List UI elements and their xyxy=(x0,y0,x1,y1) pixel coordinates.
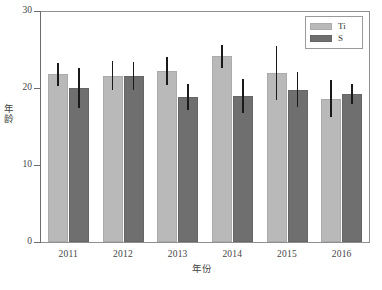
bar-s-2016 xyxy=(342,94,362,242)
error-bar-s-2012 xyxy=(133,62,134,90)
error-bar-ti-2011 xyxy=(57,63,58,86)
bar-ti-2013 xyxy=(157,71,177,242)
y-tick-label: 0 xyxy=(0,237,32,247)
legend-swatch-s-icon xyxy=(310,35,332,42)
bar-s-2011 xyxy=(69,88,89,242)
error-bar-s-2016 xyxy=(351,84,352,104)
x-axis-title-text: 年份 xyxy=(192,264,212,274)
y-tick-mark xyxy=(34,242,40,243)
error-bar-s-2011 xyxy=(78,68,79,108)
error-bar-ti-2012 xyxy=(112,61,113,90)
y-tick-mark xyxy=(34,165,40,166)
y-tick-label: 30 xyxy=(0,6,32,16)
x-tick-label-2012: 2012 xyxy=(103,250,143,260)
x-axis-title: 年份 xyxy=(0,265,382,275)
legend-label-s: S xyxy=(338,34,343,43)
x-tick-label-2011: 2011 xyxy=(48,250,88,260)
error-bar-ti-2013 xyxy=(166,57,167,85)
error-bar-s-2013 xyxy=(187,84,188,110)
y-tick-mark xyxy=(34,88,40,89)
legend: Ti S xyxy=(305,16,363,49)
legend-item-ti: Ti xyxy=(310,21,358,32)
legend-item-s: S xyxy=(310,33,358,44)
legend-label-ti: Ti xyxy=(338,22,346,31)
error-bar-ti-2014 xyxy=(221,45,222,68)
bar-ti-2016 xyxy=(321,99,341,242)
bar-ti-2012 xyxy=(103,76,123,242)
error-bar-s-2014 xyxy=(242,79,243,113)
bar-s-2015 xyxy=(288,90,308,242)
x-tick-label-2013: 2013 xyxy=(158,250,198,260)
error-bar-s-2015 xyxy=(297,72,298,107)
error-bar-ti-2016 xyxy=(330,80,331,117)
bar-ti-2011 xyxy=(48,74,68,242)
x-tick-label-2016: 2016 xyxy=(322,250,362,260)
y-tick-mark xyxy=(34,11,40,12)
bar-ti-2014 xyxy=(212,56,232,242)
y-axis-title: 年龄 xyxy=(2,104,12,124)
bar-s-2012 xyxy=(124,76,144,242)
x-tick-label-2015: 2015 xyxy=(267,250,307,260)
y-tick-label: 10 xyxy=(0,160,32,170)
y-tick-label: 20 xyxy=(0,83,32,93)
bar-s-2014 xyxy=(233,96,253,242)
bar-chart: 0102030 201120122013201420152016 年龄 年份 T… xyxy=(0,0,382,290)
bar-s-2013 xyxy=(178,97,198,242)
legend-swatch-ti-icon xyxy=(310,23,332,30)
x-tick-label-2014: 2014 xyxy=(212,250,252,260)
error-bar-ti-2015 xyxy=(276,46,277,100)
